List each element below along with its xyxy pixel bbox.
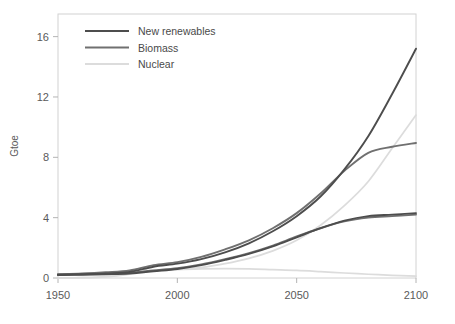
legend-label-2: Nuclear bbox=[138, 58, 175, 70]
x-tick-label: 2000 bbox=[165, 289, 189, 301]
y-axis-title: Gtoe bbox=[9, 135, 20, 157]
series-line-new-renewables-high bbox=[58, 49, 416, 275]
x-tick-label: 2100 bbox=[404, 289, 428, 301]
y-tick-label: 4 bbox=[43, 212, 49, 224]
x-tick-label: 1950 bbox=[46, 289, 70, 301]
chart-container: 04812161950200020502100GtoeNew renewable… bbox=[0, 0, 455, 324]
y-tick-label: 12 bbox=[37, 91, 49, 103]
legend-label-1: Biomass bbox=[138, 42, 178, 54]
y-tick-label: 0 bbox=[43, 272, 49, 284]
series-line-biomass-high bbox=[58, 143, 416, 274]
y-tick-label: 8 bbox=[43, 151, 49, 163]
series-line-nuclear-high bbox=[58, 115, 416, 278]
y-tick-label: 16 bbox=[37, 31, 49, 43]
x-tick-label: 2050 bbox=[284, 289, 308, 301]
line-chart: 04812161950200020502100GtoeNew renewable… bbox=[0, 0, 455, 324]
legend-label-0: New renewables bbox=[138, 25, 216, 37]
